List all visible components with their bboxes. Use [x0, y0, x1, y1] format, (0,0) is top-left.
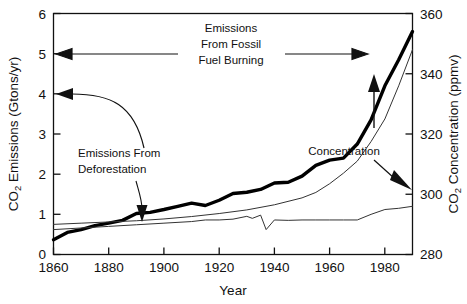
y2-tick-label: 280	[420, 247, 443, 262]
y2-tick-label: 360	[420, 7, 443, 22]
y-axis-title-co: CO	[6, 191, 21, 211]
x-tick-label: 1880	[94, 260, 124, 275]
fossil-annotation-line-1: Emissions	[205, 22, 258, 34]
y2-tick-label: 340	[420, 67, 443, 82]
fossil-annotation-line-3: Fuel Burning	[198, 54, 263, 66]
concentration-annotation-label: Concentration	[308, 145, 380, 157]
y-tick-label: 6	[38, 7, 46, 22]
x-tick-label: 1980	[370, 260, 400, 275]
co2-emissions-concentration-chart: 6 5 4 3 2 1 0 360 340 320 300 280 1860 1…	[0, 0, 467, 304]
y2-axis-title-co: CO	[446, 193, 461, 213]
fossil-annotation-line-2: From Fossil	[201, 38, 261, 50]
y-tick-label: 4	[38, 87, 46, 102]
y-tick-label: 1	[38, 207, 46, 222]
chart-canvas: 6 5 4 3 2 1 0 360 340 320 300 280 1860 1…	[0, 0, 467, 304]
deforestation-annotation-line-2: Deforestation	[78, 163, 146, 175]
x-tick-label: 1900	[149, 260, 179, 275]
x-tick-label: 1940	[259, 260, 289, 275]
y2-tick-label: 300	[420, 187, 443, 202]
y2-axis-title-rest: Concentration (ppmv)	[446, 54, 461, 188]
y2-tick-label: 320	[420, 127, 443, 142]
y-tick-label: 5	[38, 47, 46, 62]
x-tick-label: 1860	[38, 260, 68, 275]
x-tick-label: 1920	[204, 260, 234, 275]
x-tick-label: 1960	[315, 260, 345, 275]
deforestation-annotation-line-1: Emissions From	[78, 147, 160, 159]
y-axis-title-rest: Emissions (Gtons/yr)	[6, 57, 21, 186]
y-tick-label: 2	[38, 167, 46, 182]
y-tick-label: 3	[38, 127, 46, 142]
x-axis-title: Year	[219, 283, 247, 298]
